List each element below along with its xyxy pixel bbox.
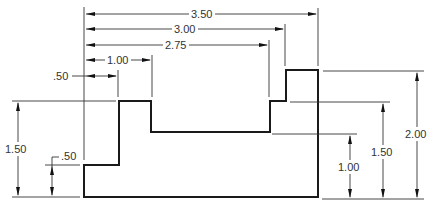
dimension-100: 1.00 bbox=[86, 53, 151, 67]
dimension-label-275: 2.75 bbox=[165, 39, 186, 51]
dimension-050: .50 bbox=[53, 70, 117, 82]
dimension-left-050: .50 bbox=[50, 150, 76, 196]
dimension-right-150: 1.50 bbox=[369, 103, 397, 198]
dimension-label-050: .50 bbox=[53, 70, 68, 82]
dimension-label-300: 3.00 bbox=[174, 23, 195, 35]
part-outline bbox=[84, 70, 318, 197]
dimension-label-100: 1.00 bbox=[107, 54, 128, 66]
dimension-left-150: 1.50 bbox=[4, 102, 32, 196]
dimension-right-100: 1.00 bbox=[336, 135, 364, 198]
technical-drawing: 3.50 3.00 2.75 1.00 .50 1.50 bbox=[0, 0, 438, 203]
dimension-label-350: 3.50 bbox=[191, 8, 212, 20]
dimension-275: 2.75 bbox=[86, 38, 268, 52]
dimension-label-left-050: .50 bbox=[61, 150, 76, 162]
dimension-label-right-150: 1.50 bbox=[371, 146, 392, 158]
dimension-label-right-200: 2.00 bbox=[405, 128, 426, 140]
dimension-350: 3.50 bbox=[86, 7, 317, 21]
dimension-label-left-150: 1.50 bbox=[5, 143, 26, 155]
dimension-300: 3.00 bbox=[86, 22, 284, 36]
dimension-right-200: 2.00 bbox=[403, 72, 431, 198]
dimension-label-right-100: 1.00 bbox=[338, 161, 359, 173]
